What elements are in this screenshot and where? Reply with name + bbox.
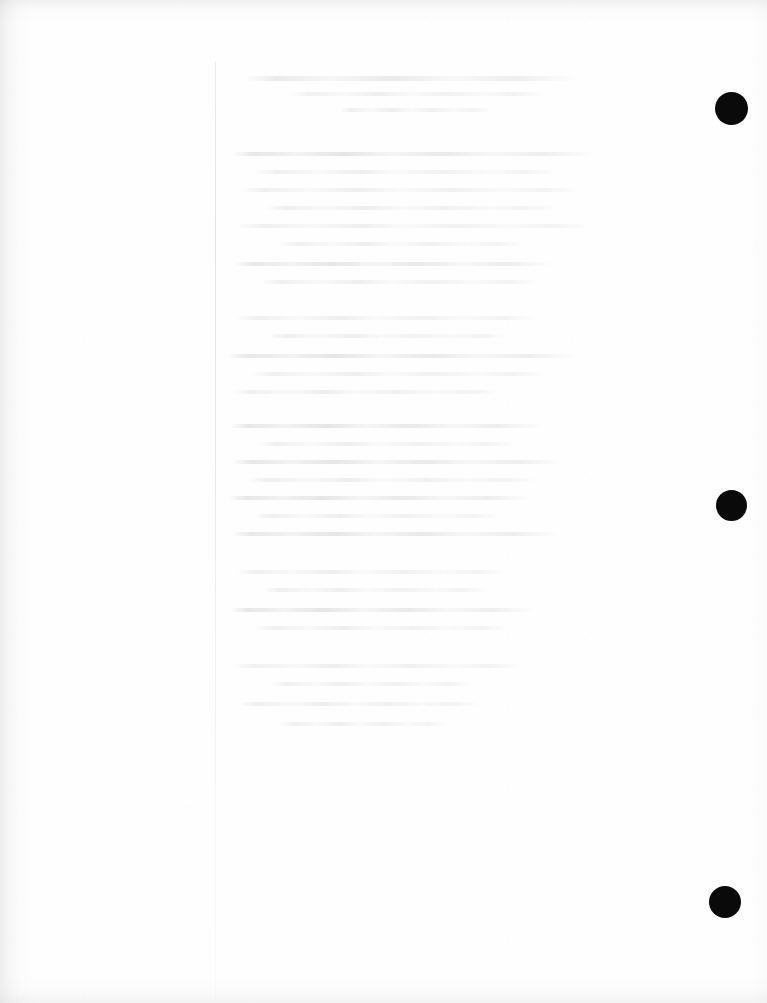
paper-surface [0, 0, 767, 1003]
punch-hole-icon [716, 490, 747, 521]
punch-hole-icon [709, 886, 741, 918]
punch-hole-icon [715, 92, 748, 125]
scanned-page: Scanned Document Page [0, 0, 767, 1003]
